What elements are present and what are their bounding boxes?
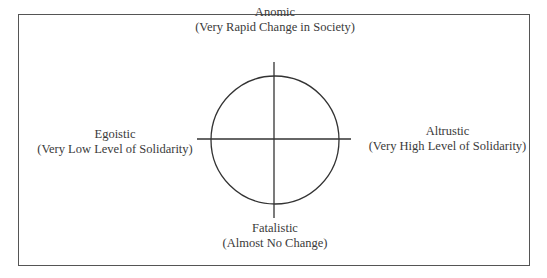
altruistic-subtitle: (Very High Level of Solidarity) [355,139,540,154]
egoistic-subtitle: (Very Low Level of Solidarity) [30,142,200,157]
fatalistic-subtitle: (Almost No Change) [175,236,375,251]
label-anomic: Anomic (Very Rapid Change in Society) [175,5,375,35]
fatalistic-title: Fatalistic [175,221,375,236]
solidarity-circle [211,76,339,204]
label-egoistic: Egoistic (Very Low Level of Solidarity) [30,127,200,157]
anomic-subtitle: (Very Rapid Change in Society) [175,20,375,35]
label-altruistic: Altrustic (Very High Level of Solidarity… [355,124,540,154]
anomic-title: Anomic [175,5,375,20]
altruistic-title: Altrustic [355,124,540,139]
egoistic-title: Egoistic [30,127,200,142]
label-fatalistic: Fatalistic (Almost No Change) [175,221,375,251]
